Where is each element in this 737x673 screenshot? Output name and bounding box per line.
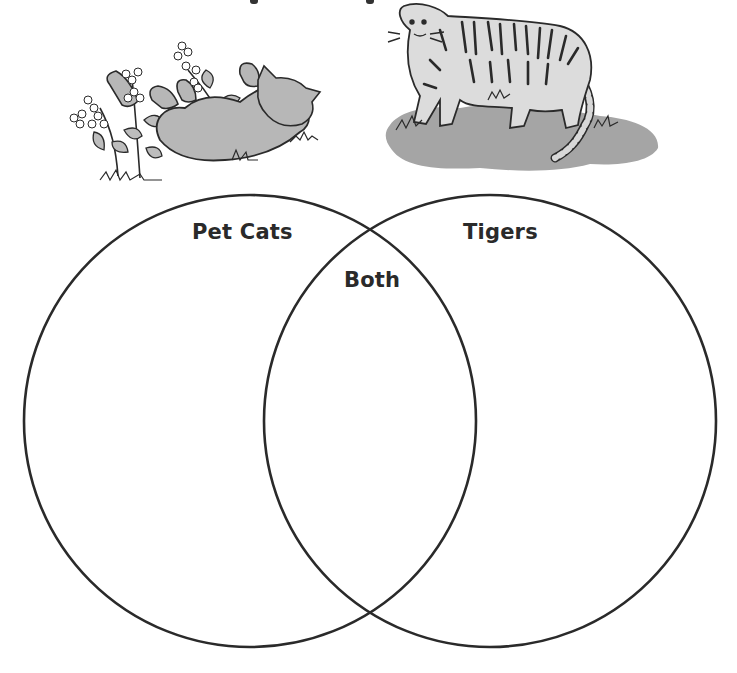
venn-worksheet: Pet Cats Tigers Both <box>0 0 737 673</box>
pet-cats-label: Pet Cats <box>192 220 293 244</box>
venn-diagram-svg <box>0 0 737 673</box>
pet-cats-circle <box>24 195 476 647</box>
tigers-label: Tigers <box>463 220 538 244</box>
tiger-illustration <box>386 4 658 171</box>
both-label: Both <box>344 268 400 292</box>
tigers-circle <box>264 195 716 647</box>
cat-illustration <box>70 42 320 180</box>
